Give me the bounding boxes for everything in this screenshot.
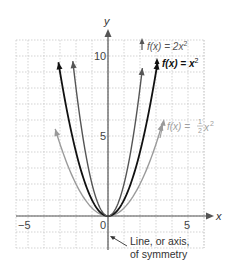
- symmetry-annotation: Line, or axis, of symmetry: [110, 235, 190, 260]
- annotation-line-1: Line, or axis,: [130, 235, 190, 247]
- annotation-arrow-icon: [110, 236, 116, 240]
- x-axis-arrow-icon: [206, 213, 214, 220]
- tick-label-0: 0: [100, 219, 106, 231]
- curve-05x2: [55, 124, 162, 216]
- curve-arrow-icon: [57, 62, 63, 69]
- svg-text:f(x) =: f(x) =: [167, 121, 190, 132]
- curve-arrow-icon: [54, 129, 60, 137]
- svg-text:x: x: [203, 122, 210, 133]
- y-axis-arrow-icon: [105, 29, 112, 37]
- parabola-chart: x y −5 0 5 5 10 f(x) = 2x2 f(x) = x2 f(x…: [0, 0, 236, 272]
- curves: [54, 38, 165, 216]
- svg-text:2: 2: [198, 127, 202, 134]
- annotation-line-2: of symmetry: [130, 248, 188, 260]
- tick-label-y10: 10: [94, 50, 106, 62]
- svg-text:1: 1: [198, 118, 202, 125]
- tick-label-neg5: −5: [18, 219, 31, 231]
- x-axis-label: x: [215, 210, 222, 222]
- label-x-squared: f(x) = x2: [162, 57, 199, 69]
- label-2x-squared: f(x) = 2x2: [147, 40, 187, 52]
- tick-label-5: 5: [184, 219, 190, 231]
- label-pointer-arrow-icon: [155, 58, 160, 64]
- grid: [16, 40, 204, 248]
- annotation-leader-line: [112, 237, 127, 246]
- tick-label-y5: 5: [100, 130, 106, 142]
- y-axis-label: y: [103, 15, 111, 27]
- svg-text:2: 2: [210, 120, 214, 127]
